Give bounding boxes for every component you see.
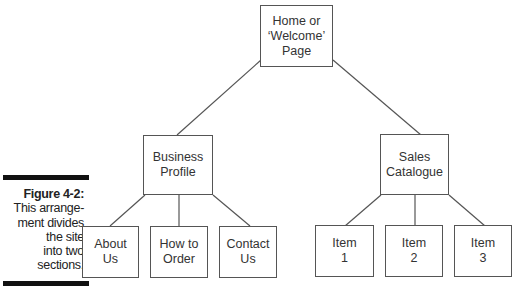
node-label: Business Profile xyxy=(153,150,204,180)
node-item-1: Item 1 xyxy=(315,225,374,277)
node-label: Item 1 xyxy=(332,236,356,266)
node-label: Item 2 xyxy=(402,236,426,266)
node-item-2: Item 2 xyxy=(385,225,443,277)
node-home: Home or ‘Welcome’ Page xyxy=(260,5,333,67)
node-label: About Us xyxy=(94,237,127,267)
node-label: Contact Us xyxy=(226,237,269,267)
node-how-to-order: How to Order xyxy=(150,226,208,278)
node-item-3: Item 3 xyxy=(454,225,512,277)
node-about-us: About Us xyxy=(82,226,139,278)
node-sales-catalogue: Sales Catalogue xyxy=(380,134,449,195)
node-label: Sales Catalogue xyxy=(386,150,443,180)
node-contact-us: Contact Us xyxy=(219,226,277,278)
node-home-label: Home or ‘Welcome’ Page xyxy=(268,14,325,59)
node-label: How to Order xyxy=(160,237,199,267)
node-business-profile: Business Profile xyxy=(143,135,213,195)
node-label: Item 3 xyxy=(471,236,495,266)
